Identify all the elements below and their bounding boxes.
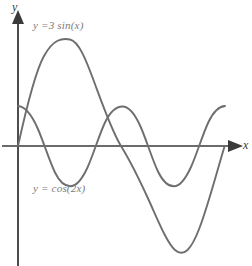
x-axis-label: x: [243, 138, 248, 153]
y-axis-label: y: [12, 0, 17, 15]
cosine-function-label: y = cos(2x): [33, 182, 85, 194]
x-axis-arrow-icon: [228, 140, 243, 152]
function-graph-figure: y =3 sin(x) y = cos(2x) y x: [0, 0, 252, 266]
graph-canvas: [0, 0, 252, 266]
sine-function-label: y =3 sin(x): [33, 19, 84, 31]
